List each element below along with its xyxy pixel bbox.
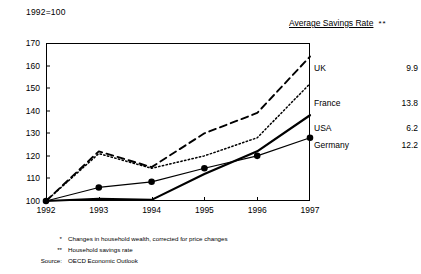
y-axis-tick-label: 170 (26, 39, 40, 48)
legend-series-name: UK (314, 63, 326, 73)
x-axis-tick-label: 1996 (248, 206, 267, 215)
y-axis-tick-label: 150 (26, 84, 40, 93)
footnote-row: *Changes in household wealth, corrected … (20, 234, 228, 245)
y-axis-tick-label: 110 (26, 174, 40, 183)
chart-plot-area: 100110120130140150160170 199219931994199… (46, 43, 310, 201)
series-marker-germany (96, 184, 103, 191)
footnote-text: Changes in household wealth, corrected f… (68, 234, 228, 245)
legend-row: UK9.9 (314, 62, 418, 73)
legend-series-value: 9.9 (406, 63, 418, 73)
series-line-uk (46, 57, 310, 201)
legend-row: France13.8 (314, 97, 418, 108)
footnote-text: OECD Economic Outlook (68, 256, 138, 267)
series-line-usa (46, 115, 310, 201)
legend-series-value: 13.8 (401, 98, 418, 108)
chart-page: 1992=100 Average Savings Rate** 10011012… (0, 0, 421, 274)
footnote-marker: * (20, 234, 68, 245)
series-line-germany (46, 138, 310, 201)
legend-row: USA6.2 (314, 122, 418, 133)
legend-title-text: Average Savings Rate (289, 18, 373, 28)
chart-series-layer (46, 43, 310, 201)
y-axis-tick-label: 160 (26, 61, 40, 70)
x-axis-tick-label: 1997 (301, 206, 320, 215)
series-marker-germany (201, 165, 208, 172)
y-axis-tick-label: 120 (26, 152, 40, 161)
series-marker-germany (307, 135, 314, 142)
footnotes: *Changes in household wealth, corrected … (20, 234, 228, 267)
footnote-row: **Household savings rate (20, 245, 228, 256)
footnote-marker: Source: (20, 256, 68, 267)
series-marker-germany (148, 179, 155, 186)
series-marker-germany (254, 153, 261, 160)
x-axis-tick-label: 1994 (142, 206, 161, 215)
legend-series-name: France (314, 98, 340, 108)
series-marker-germany (43, 198, 50, 205)
legend-series-value: 6.2 (406, 123, 418, 133)
x-axis-tick-label: 1995 (195, 206, 214, 215)
x-axis-tick-label: 1993 (89, 206, 108, 215)
footnote-marker: ** (20, 245, 68, 256)
index-note: 1992=100 (26, 7, 66, 17)
legend-row: Germany12.2 (314, 139, 418, 150)
y-axis-tick-label: 140 (26, 106, 40, 115)
legend-series-name: USA (314, 123, 331, 133)
footnote-row: Source:OECD Economic Outlook (20, 256, 228, 267)
y-axis-tick-label: 100 (26, 197, 40, 206)
legend-title: Average Savings Rate** (289, 18, 387, 28)
x-axis-tick-label: 1992 (37, 206, 56, 215)
y-axis-tick-label: 130 (26, 129, 40, 138)
legend-series-value: 12.2 (401, 140, 418, 150)
footnote-text: Household savings rate (68, 245, 133, 256)
legend-series-name: Germany (314, 140, 349, 150)
legend-title-marker: ** (378, 19, 386, 28)
